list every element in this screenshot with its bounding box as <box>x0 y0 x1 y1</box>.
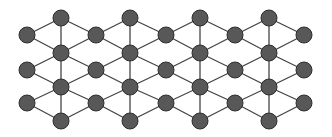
node-a1 <box>19 27 35 43</box>
node-c3 <box>88 95 104 111</box>
node-e1 <box>158 27 174 43</box>
node-g1 <box>227 27 243 43</box>
node-h1 <box>261 10 277 26</box>
node-d4 <box>122 113 138 129</box>
node-e3 <box>158 95 174 111</box>
node-b3 <box>53 79 69 95</box>
node-f1 <box>192 10 208 26</box>
node-f3 <box>192 79 208 95</box>
node-h4 <box>261 113 277 129</box>
node-e2 <box>158 62 174 78</box>
lattice-diagram <box>0 0 332 137</box>
node-g3 <box>227 95 243 111</box>
node-a3 <box>19 95 35 111</box>
node-i1 <box>296 27 312 43</box>
node-i2 <box>296 62 312 78</box>
node-c2 <box>88 62 104 78</box>
node-b1 <box>53 10 69 26</box>
node-b4 <box>53 113 69 129</box>
node-h3 <box>261 79 277 95</box>
node-f2 <box>192 45 208 61</box>
node-i3 <box>296 95 312 111</box>
node-d2 <box>122 45 138 61</box>
node-g2 <box>227 62 243 78</box>
lattice-graph-svg <box>0 0 332 137</box>
node-h2 <box>261 45 277 61</box>
node-d1 <box>122 10 138 26</box>
node-a2 <box>19 62 35 78</box>
node-layer <box>19 10 312 129</box>
node-f4 <box>192 113 208 129</box>
node-b2 <box>53 45 69 61</box>
node-d3 <box>122 79 138 95</box>
node-c1 <box>88 27 104 43</box>
